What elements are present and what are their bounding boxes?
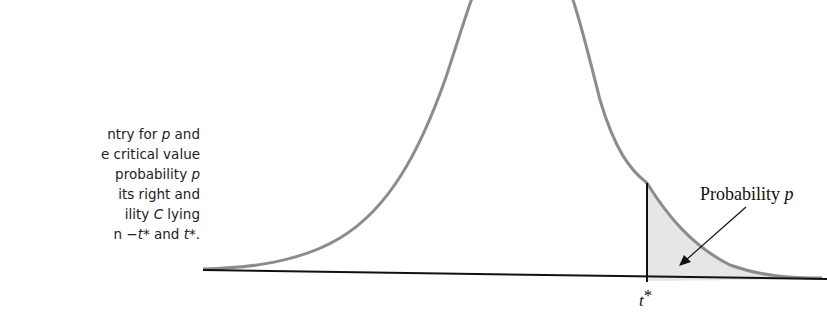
density-curve [203, 0, 822, 278]
probability-label: Probability p [700, 184, 794, 204]
arrow-line [686, 207, 746, 260]
critical-value-label: t* [639, 286, 652, 310]
t-distribution-figure: Probability p t* [0, 0, 827, 318]
